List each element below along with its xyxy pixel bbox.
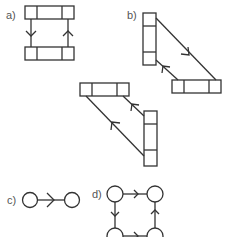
panel-a: [25, 6, 74, 60]
panel-d: [107, 186, 163, 237]
diagram-canvas: [0, 0, 225, 237]
panel-b-upper: [143, 13, 221, 93]
panel-c: [23, 193, 80, 208]
panel-b-lower: [80, 83, 157, 166]
